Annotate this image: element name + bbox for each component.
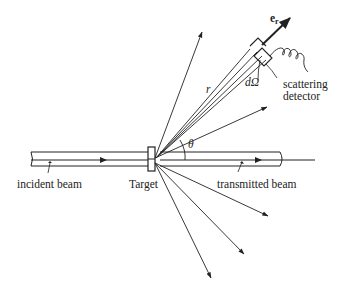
transmitted-beam-label: transmitted beam xyxy=(217,178,297,190)
transmitted-beam-leader xyxy=(238,162,242,172)
d-omega-label: dΩ xyxy=(245,76,259,88)
incident-beam xyxy=(31,152,148,166)
detector-leader xyxy=(266,64,277,78)
transmitted-beam-arrow-icon xyxy=(255,157,262,163)
scattering-detector xyxy=(250,38,272,66)
er-label: er xyxy=(270,12,279,26)
theta-arc xyxy=(180,140,185,160)
theta-label: θ xyxy=(188,138,194,150)
transmitted-beam xyxy=(160,152,315,166)
scattered-rays xyxy=(155,32,268,278)
incident-beam-arrow-icon xyxy=(100,157,107,163)
incident-beam-leader xyxy=(48,163,50,173)
detector-cable xyxy=(270,48,308,72)
r-label: r xyxy=(206,83,211,95)
target xyxy=(148,147,155,171)
incident-beam-label: incident beam xyxy=(17,178,82,190)
scattering-diagram: incident beam Target transmitted beam θ … xyxy=(0,0,341,296)
target-label: Target xyxy=(129,178,159,191)
detector-label: detector xyxy=(283,90,320,102)
detector-cone xyxy=(156,49,266,158)
